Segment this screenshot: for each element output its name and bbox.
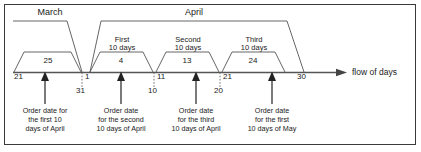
axis-tick-21-april: 21 — [223, 73, 232, 82]
order-note-1: Order date for the first 10 days of Apri… — [5, 106, 85, 134]
order-note-1-line3: days of April — [5, 124, 85, 133]
order-note-4-line2: for the first — [232, 115, 312, 124]
order-note-2-line3: 10 days of April — [81, 124, 161, 133]
order-note-1-line1: Order date for — [5, 106, 85, 115]
axis-tick-21-march: 21 — [14, 73, 23, 82]
order-note-2-line1: Order date — [81, 106, 161, 115]
period-value-march-last: 25 — [28, 57, 68, 66]
order-note-3-line1: Order date — [156, 106, 236, 115]
order-note-2: Order date for the second 10 days of Apr… — [81, 106, 161, 134]
axis-tick-20-april: 20 — [214, 87, 223, 96]
diagram-figure: March April First 10 days Second 10 days… — [0, 0, 421, 152]
order-note-4: Order date for the first 10 days of May — [232, 106, 312, 134]
order-note-2-line2: for the second — [81, 115, 161, 124]
axis-name-flow-of-days: flow of days — [352, 68, 397, 78]
order-note-1-line2: the first 10 — [5, 115, 85, 124]
period-label-april-first-line2: 10 days — [95, 44, 149, 52]
period-label-april-second-line2: 10 days — [161, 44, 215, 52]
axis-tick-31-march: 31 — [76, 87, 85, 96]
period-label-april-third-line2: 10 days — [227, 44, 281, 52]
axis-tick-30-april: 30 — [297, 73, 306, 82]
order-note-4-line3: 10 days of May — [232, 124, 312, 133]
order-arrow-2 — [117, 72, 125, 105]
order-arrow-4 — [268, 72, 276, 105]
order-note-3-line3: 10 days of April — [156, 124, 236, 133]
month-label-april: April — [164, 7, 224, 17]
month-label-march: March — [22, 7, 78, 17]
order-arrow-1 — [41, 72, 49, 105]
order-note-4-line1: Order date — [232, 106, 312, 115]
axis-tick-11-april: 11 — [157, 73, 165, 82]
axis-tick-1-april: 1 — [85, 73, 89, 82]
period-value-april-third: 24 — [233, 57, 273, 66]
period-value-april-second: 13 — [167, 57, 207, 66]
order-note-3-line2: for the third — [156, 115, 236, 124]
order-note-3: Order date for the third 10 days of Apri… — [156, 106, 236, 134]
period-value-april-first: 4 — [101, 57, 141, 66]
order-arrow-3 — [192, 72, 200, 105]
axis-tick-10-april: 10 — [148, 87, 157, 96]
